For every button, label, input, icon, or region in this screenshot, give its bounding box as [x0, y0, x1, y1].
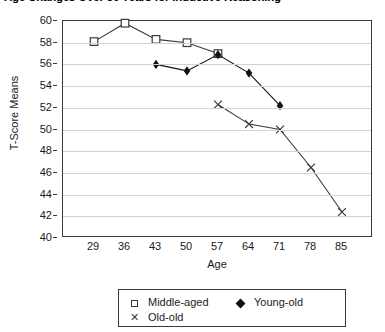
y-axis-title: T-Score Means — [8, 53, 20, 173]
data-point-filled-diamond — [184, 66, 191, 75]
gridline — [63, 86, 371, 87]
gridline — [63, 195, 371, 196]
legend-label-young-old: Young-old — [254, 297, 303, 308]
chart-figure: Age Changes Over 56 Years for Inductive … — [0, 0, 385, 332]
y-tick-label: 40 — [2, 232, 52, 243]
y-tick-label: 58 — [2, 36, 52, 47]
gridline — [63, 151, 371, 152]
y-tick-mark — [53, 85, 57, 86]
x-marker-icon: ✕ — [126, 312, 142, 323]
data-point-x-marker — [307, 164, 315, 172]
y-tick-mark — [53, 42, 57, 43]
legend-item-old-old: ✕ Old-old — [126, 312, 183, 323]
y-tick-mark — [53, 129, 57, 130]
chart-title: Age Changes Over 56 Years for Inductive … — [4, 0, 334, 3]
filled-diamond-icon — [232, 297, 248, 308]
y-tick-mark — [53, 20, 57, 21]
data-point-x-marker — [338, 208, 346, 216]
legend-label-old-old: Old-old — [148, 312, 183, 323]
y-tick-mark — [53, 194, 57, 195]
series-line — [156, 55, 280, 106]
x-tick-label: 85 — [321, 241, 361, 252]
open-square-icon — [126, 297, 142, 308]
x-axis-title: Age — [62, 258, 372, 270]
legend-item-young-old: Young-old — [232, 297, 303, 308]
data-point-open-square — [90, 38, 98, 46]
legend-item-middle-aged: Middle-aged — [126, 297, 209, 308]
series-young-old — [153, 50, 284, 110]
gridline — [63, 64, 371, 65]
series-old-old — [214, 101, 346, 216]
y-tick-mark — [53, 150, 57, 151]
series-middle-aged — [90, 19, 222, 57]
gridline — [63, 43, 371, 44]
plot-area — [62, 20, 372, 237]
y-tick-mark — [53, 172, 57, 173]
chart-legend: Middle-aged ✕ Old-old Young-old — [118, 289, 346, 327]
series-line — [218, 105, 342, 213]
gridline — [63, 173, 371, 174]
gridline — [63, 108, 371, 109]
y-tick-label: 44 — [2, 188, 52, 199]
y-tick-mark — [53, 215, 57, 216]
y-tick-label: 60 — [2, 15, 52, 26]
gridline — [63, 216, 371, 217]
y-tick-mark — [53, 237, 57, 238]
y-tick-mark — [53, 63, 57, 64]
x-axis-ticks: 293643505764717885 — [62, 237, 372, 257]
legend-label-middle-aged: Middle-aged — [148, 297, 209, 308]
data-point-open-square — [121, 19, 129, 27]
y-tick-mark — [53, 107, 57, 108]
y-tick-label: 42 — [2, 210, 52, 221]
gridline — [63, 130, 371, 131]
